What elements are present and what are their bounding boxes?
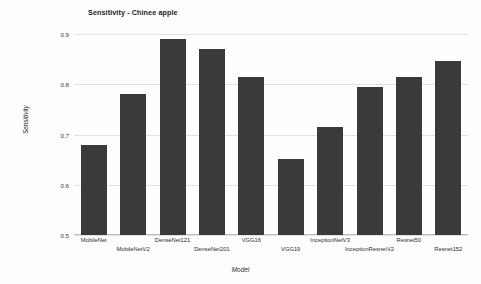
bar bbox=[435, 61, 461, 235]
y-tick-label: 0.5 bbox=[60, 232, 69, 239]
bar bbox=[238, 77, 264, 235]
bar bbox=[160, 39, 186, 235]
bar bbox=[317, 127, 343, 235]
bar bbox=[278, 159, 304, 235]
chart-container: Sensitivity - Chinee apple 0.50.60.70.80… bbox=[0, 0, 481, 284]
y-tick-label: 0.8 bbox=[60, 81, 69, 88]
bar bbox=[81, 145, 107, 235]
y-tick-label: 0.7 bbox=[60, 131, 69, 138]
x-tick-label: Resnet50 bbox=[396, 237, 421, 243]
x-tick-label: VGG16 bbox=[242, 237, 261, 243]
bar bbox=[396, 77, 422, 235]
y-tick-label: 0.6 bbox=[60, 181, 69, 188]
bars-group bbox=[74, 34, 468, 235]
x-axis-title: Model bbox=[0, 266, 481, 273]
chart-title: Sensitivity - Chinee apple bbox=[88, 8, 178, 17]
bar bbox=[199, 49, 225, 235]
x-tick-label: Resnet152 bbox=[434, 246, 462, 252]
x-tick-label: DenseNet121 bbox=[155, 237, 190, 243]
x-tick-label: MobileNetV2 bbox=[116, 246, 149, 252]
plot-area: 0.50.60.70.80.9 bbox=[74, 34, 468, 235]
x-tick-label: InceptionResnetV2 bbox=[345, 246, 394, 252]
y-tick-label: 0.9 bbox=[60, 31, 69, 38]
x-tick-label: VGG19 bbox=[281, 246, 300, 252]
bar bbox=[357, 87, 383, 235]
bar bbox=[120, 94, 146, 235]
x-tick-label: InceptionNetV3 bbox=[310, 237, 350, 243]
gridline bbox=[74, 235, 468, 236]
y-axis-title: Sensitivity bbox=[22, 105, 29, 134]
x-tick-labels-group: MobileNetMobileNetV2DenseNet121DenseNet2… bbox=[74, 237, 468, 263]
x-tick-label: DenseNet201 bbox=[194, 246, 229, 252]
x-tick-label: MobileNet bbox=[81, 237, 107, 243]
